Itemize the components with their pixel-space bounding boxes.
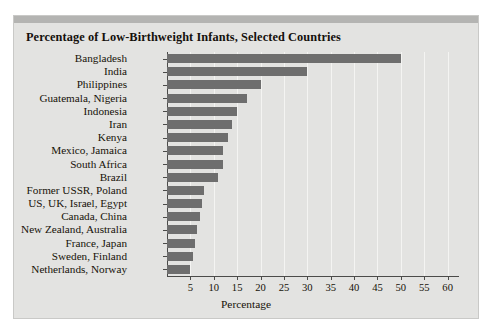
x-axis-tick <box>377 276 378 280</box>
category-label: Former USSR, Poland <box>27 185 127 196</box>
bar-row <box>167 133 457 142</box>
x-axis-tick <box>307 276 308 280</box>
x-axis-tick <box>237 276 238 280</box>
bar[interactable] <box>167 133 228 142</box>
bar-row <box>167 265 457 274</box>
x-axis-tick <box>331 276 332 280</box>
bar[interactable] <box>167 239 195 248</box>
category-label: New Zealand, Australia <box>21 224 127 235</box>
bar-row <box>167 107 457 116</box>
page-title: Percentage of Low-Birthweight Infants, S… <box>26 30 341 45</box>
y-axis-tick <box>163 124 167 125</box>
x-axis-line <box>167 276 459 277</box>
y-axis-tick <box>163 177 167 178</box>
category-label: Iran <box>109 119 127 130</box>
y-axis-tick <box>163 256 167 257</box>
y-axis-tick <box>163 85 167 86</box>
bar-row <box>167 80 457 89</box>
bar[interactable] <box>167 265 190 274</box>
bar[interactable] <box>167 67 307 76</box>
bar[interactable] <box>167 80 261 89</box>
category-label: Netherlands, Norway <box>31 264 127 275</box>
category-label: Canada, China <box>61 211 127 222</box>
bar[interactable] <box>167 160 223 169</box>
y-axis-tick <box>163 269 167 270</box>
x-axis-tick <box>261 276 262 280</box>
x-axis-tick <box>190 276 191 280</box>
bar[interactable] <box>167 54 401 63</box>
category-label: Philippines <box>77 79 127 90</box>
bar-row <box>167 199 457 208</box>
y-axis-tick <box>163 217 167 218</box>
x-axis-tick <box>401 276 402 280</box>
category-label: US, UK, Israel, Egypt <box>28 198 127 209</box>
y-axis-tick <box>163 204 167 205</box>
bar[interactable] <box>167 212 200 221</box>
category-label: Mexico, Jamaica <box>51 145 127 156</box>
bar[interactable] <box>167 146 223 155</box>
x-axis-label: Percentage <box>14 298 478 310</box>
bar[interactable] <box>167 225 197 234</box>
y-axis-tick <box>163 243 167 244</box>
category-label: India <box>104 66 127 77</box>
y-axis-tick <box>163 138 167 139</box>
y-axis-tick <box>163 190 167 191</box>
category-label: Kenya <box>98 132 127 143</box>
bar-row <box>167 173 457 182</box>
bar-row <box>167 146 457 155</box>
bar-row <box>167 120 457 129</box>
bar[interactable] <box>167 120 232 129</box>
x-axis-tick <box>284 276 285 280</box>
bar[interactable] <box>167 199 202 208</box>
bar[interactable] <box>167 107 237 116</box>
bar-row <box>167 94 457 103</box>
bar-row <box>167 239 457 248</box>
bar[interactable] <box>167 94 247 103</box>
bar-row <box>167 186 457 195</box>
bar-row <box>167 252 457 261</box>
bar-row <box>167 54 457 63</box>
y-axis-tick <box>163 72 167 73</box>
chart-panel: Percentage of Low-Birthweight Infants, S… <box>14 16 478 318</box>
category-label: South Africa <box>70 159 127 170</box>
bar[interactable] <box>167 252 193 261</box>
y-axis-tick <box>163 111 167 112</box>
y-axis-tick <box>163 98 167 99</box>
category-label: Brazil <box>100 172 127 183</box>
bar-row <box>167 225 457 234</box>
bar[interactable] <box>167 186 204 195</box>
bar[interactable] <box>167 173 218 182</box>
x-axis-tick <box>424 276 425 280</box>
x-axis-tick <box>214 276 215 280</box>
category-label: Sweden, Finland <box>52 251 127 262</box>
panel-top-band <box>14 16 478 23</box>
category-label: Indonesia <box>84 106 128 117</box>
category-label: Bangladesh <box>75 53 127 64</box>
y-axis-tick <box>163 59 167 60</box>
bar-row <box>167 160 457 169</box>
category-label: France, Japan <box>65 238 127 249</box>
y-axis-tick <box>163 151 167 152</box>
x-axis-tick <box>448 276 449 280</box>
x-axis-tick <box>354 276 355 280</box>
category-label: Guatemala, Nigeria <box>39 93 127 104</box>
y-axis-tick <box>163 230 167 231</box>
y-axis-tick <box>163 164 167 165</box>
bar-row <box>167 67 457 76</box>
x-axis-tick-label: 60 <box>433 282 463 293</box>
bar-row <box>167 212 457 221</box>
